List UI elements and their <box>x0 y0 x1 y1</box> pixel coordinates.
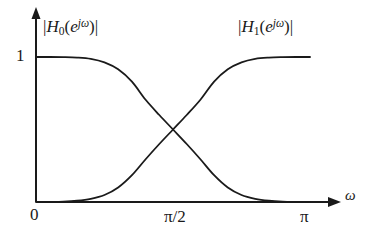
curve-label-h0: |H0(ejω)| <box>43 18 98 38</box>
curve-label-h1-base: e <box>265 17 273 36</box>
curve-label-h1-bar-close: | <box>290 17 293 36</box>
curve-label-h0-exponent: jω <box>78 17 89 30</box>
x-axis-label-omega: ω <box>345 188 356 203</box>
curve-label-h0-base: e <box>70 17 78 36</box>
x-tick-label-pi-over-2: π/2 <box>164 208 186 225</box>
curve-label-h0-name: H <box>46 17 58 36</box>
y-axis <box>32 7 41 202</box>
curve-label-h1: |H1(ejω)| <box>238 18 293 38</box>
curve-label-h0-bar-close: | <box>95 17 98 36</box>
curve-label-h1-exponent: jω <box>273 17 284 30</box>
x-tick-label-pi: π <box>300 208 309 225</box>
y-tick-label-1: 1 <box>16 47 25 64</box>
x-tick-label-0: 0 <box>30 206 39 223</box>
y-axis-arrowhead <box>32 7 41 19</box>
filter-magnitude-response-figure: 1 |H0(ejω)| |H1(ejω)| 0 π/2 π ω <box>0 0 382 240</box>
curve-h1-highpass <box>36 57 310 202</box>
x-axis-arrowhead <box>328 197 341 207</box>
curve-label-h1-name: H <box>241 17 253 36</box>
